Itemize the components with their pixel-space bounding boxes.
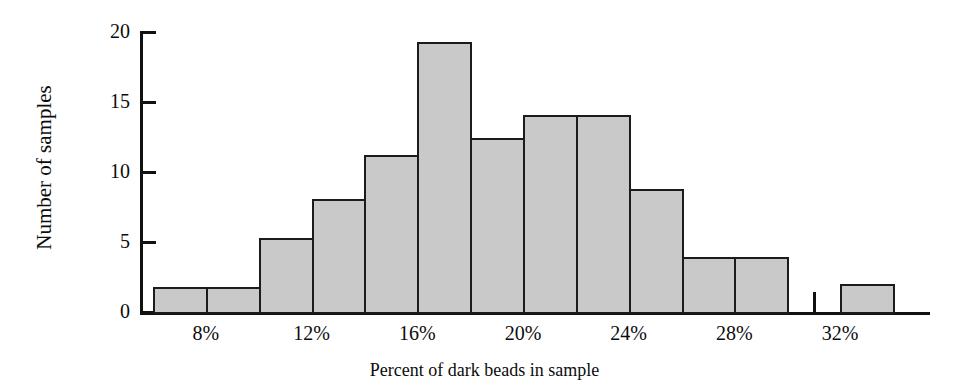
x-axis-tick-label: 12% [293, 322, 330, 344]
histogram-bar [417, 42, 472, 314]
y-axis-tick [140, 171, 156, 174]
x-axis-title: Percent of dark beads in sample [0, 360, 969, 381]
x-axis-tick-label: 32% [822, 322, 859, 344]
histogram-bar [629, 189, 684, 314]
histogram-bar [259, 238, 314, 314]
y-axis-tick-label: 10 [96, 161, 130, 181]
histogram-bar [153, 287, 208, 314]
y-axis-title: Number of samples [32, 28, 57, 308]
x-axis-tick-label: 16% [399, 322, 436, 344]
histogram-bar [576, 115, 631, 314]
histogram-bar [734, 257, 789, 314]
histogram-bar [523, 115, 578, 314]
histogram-bar [682, 257, 737, 314]
x-axis-tick-label: 8% [193, 322, 220, 344]
y-axis-tick-label: 0 [96, 301, 130, 321]
y-axis-tick [140, 241, 156, 244]
histogram-chart: 05101520 8%12%16%20%24%28%32% Number of … [0, 0, 969, 389]
histogram-bar [364, 155, 419, 314]
x-axis-tick-label: 24% [610, 322, 647, 344]
x-axis-tick [813, 292, 816, 312]
x-axis-tick-label: 28% [716, 322, 753, 344]
y-axis-tick-label: 15 [96, 91, 130, 111]
y-axis-tick [140, 31, 156, 34]
y-axis-tick [140, 101, 156, 104]
histogram-bar [206, 287, 261, 314]
y-axis-tick-label: 20 [96, 21, 130, 41]
y-axis-tick-label: 5 [96, 231, 130, 251]
histogram-bar [840, 284, 895, 314]
x-axis-tick-label: 20% [505, 322, 542, 344]
histogram-bar [470, 138, 525, 314]
histogram-bar [312, 199, 367, 314]
